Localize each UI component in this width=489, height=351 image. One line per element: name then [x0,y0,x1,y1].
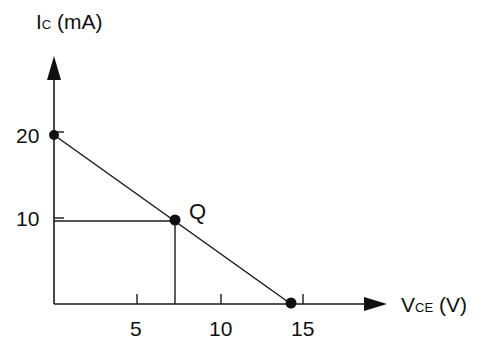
x-tick-label-10: 10 [209,318,232,339]
x-axis-label-sub: CE [415,300,433,315]
cutoff-point [286,298,297,309]
x-axis-arrow-icon [364,297,387,311]
q-point [170,215,181,226]
q-point-label: Q [189,201,206,223]
y-axis-label-unit: (mA) [57,10,103,33]
y-tick-label-10: 10 [16,208,39,229]
x-axis-label-main: V [401,293,415,316]
load-line-diagram: IC (mA) 20 10 5 10 15 Q VCE (V) [0,0,489,351]
y-axis-label: IC (mA) [36,11,103,32]
y-tick-label-20: 20 [16,125,39,146]
y-axis-label-sub: C [42,17,51,32]
saturation-point [49,130,59,140]
x-tick-label-5: 5 [130,318,142,339]
y-axis-arrow-icon [47,56,61,80]
x-tick-label-15: 15 [291,318,314,339]
x-axis-label-unit: (V) [439,293,467,316]
x-axis-label: VCE (V) [401,294,467,315]
